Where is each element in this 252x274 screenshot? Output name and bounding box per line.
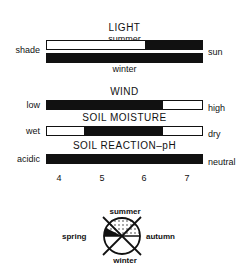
ph-tick-4: 4 — [53, 173, 65, 183]
light-right-label: sun — [208, 47, 223, 57]
ph-tick-6: 6 — [138, 173, 150, 183]
ph-tick-7: 7 — [181, 173, 193, 183]
light-winter-label: winter — [46, 64, 203, 74]
wind-fill — [47, 101, 163, 109]
soil-moisture-bar — [46, 126, 203, 136]
soil-ph-title: SOIL REACTION–pH — [46, 140, 203, 151]
wind-right-label: high — [208, 103, 225, 113]
season-autumn-label: autumn — [146, 232, 175, 241]
soil-moisture-right-label: dry — [208, 129, 221, 139]
soil-ph-bar — [46, 154, 203, 164]
light-left-label: shade — [0, 45, 40, 55]
wind-title: WIND — [46, 86, 203, 97]
wind-left-label: low — [0, 100, 40, 110]
light-summer-bar — [46, 40, 203, 50]
season-wheel-icon — [101, 215, 143, 257]
soil-ph-left-label: acidic — [0, 154, 40, 164]
soil-moisture-left-label: wet — [0, 126, 40, 136]
soil-moisture-title: SOIL MOISTURE — [46, 112, 203, 123]
light-winter-fill — [47, 54, 202, 62]
light-summer-fill — [145, 41, 202, 49]
light-title: LIGHT — [46, 22, 203, 33]
soil-ph-fill — [47, 155, 202, 163]
ph-tick-5: 5 — [96, 173, 108, 183]
wind-bar — [46, 100, 203, 110]
season-spring-label: spring — [62, 232, 86, 241]
light-winter-bar — [46, 53, 203, 63]
season-winter-label: winter — [100, 256, 150, 265]
soil-moisture-fill — [84, 127, 163, 135]
soil-ph-right-label: neutral — [208, 157, 236, 167]
